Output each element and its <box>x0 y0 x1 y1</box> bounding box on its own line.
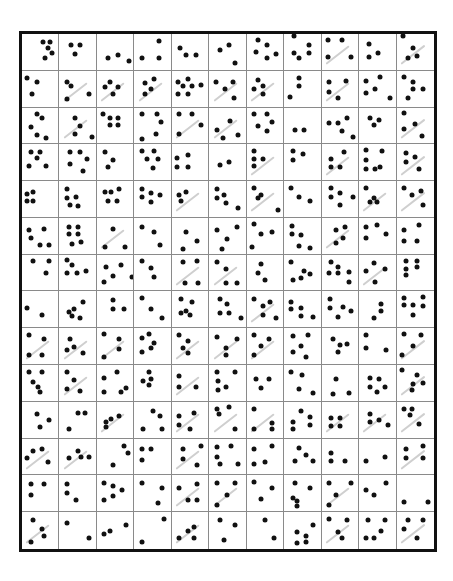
dot <box>253 377 258 382</box>
dot <box>311 314 316 319</box>
dot <box>223 384 228 389</box>
dot <box>293 127 298 132</box>
dot <box>70 241 75 246</box>
dot <box>291 278 296 283</box>
dot <box>72 132 77 137</box>
dot <box>43 135 48 140</box>
grid-cell-r9-c10 <box>359 328 396 365</box>
dot <box>420 303 425 308</box>
dot <box>116 347 121 352</box>
grid-cell-r6-c7 <box>247 218 284 255</box>
dot <box>334 376 339 381</box>
grid-cell-r5-c3 <box>97 181 134 218</box>
dot <box>186 338 191 343</box>
grid-cell-r7-c3 <box>97 255 134 292</box>
dot <box>376 50 381 55</box>
dot <box>64 387 69 392</box>
dot <box>27 228 32 233</box>
dot <box>175 164 180 169</box>
dot <box>382 455 387 460</box>
dot <box>107 80 112 85</box>
dot <box>252 157 257 162</box>
grid-cell-r3-c10 <box>359 108 396 145</box>
dot <box>81 351 86 356</box>
dot <box>214 455 219 460</box>
dot <box>377 417 382 422</box>
dot <box>306 42 311 47</box>
dot <box>186 164 191 169</box>
grid-cell-r13-c11 <box>397 475 434 512</box>
dot <box>111 494 116 499</box>
dot <box>41 482 46 487</box>
grid-cell-r6-c6 <box>209 218 246 255</box>
dot <box>339 128 344 133</box>
dot <box>177 132 182 137</box>
dot <box>326 38 331 43</box>
dot <box>82 410 87 415</box>
grid-cell-r10-c10 <box>359 365 396 402</box>
dot <box>47 417 52 422</box>
dot <box>364 185 369 190</box>
dot <box>378 75 383 80</box>
dot <box>264 56 269 61</box>
grid-cell-r5-c6 <box>209 181 246 218</box>
grid-cell-r7-c2 <box>59 255 96 292</box>
dot <box>38 389 43 394</box>
dot <box>29 540 34 545</box>
dot <box>29 235 34 240</box>
dot <box>177 45 182 50</box>
dot <box>403 273 408 278</box>
dot <box>184 52 189 57</box>
dot <box>364 78 369 83</box>
dot <box>350 134 355 139</box>
dot <box>367 55 372 60</box>
dot <box>30 189 35 194</box>
dot <box>150 165 155 170</box>
dot <box>402 228 407 233</box>
dot <box>372 122 377 127</box>
dot <box>227 43 232 48</box>
dot <box>368 199 373 204</box>
dot <box>272 535 277 540</box>
dot <box>116 123 121 128</box>
dot <box>178 296 183 301</box>
dot <box>189 300 194 305</box>
dot <box>213 79 218 84</box>
dot <box>102 498 107 503</box>
dot <box>125 450 130 455</box>
dot <box>186 528 191 533</box>
dot <box>25 305 30 310</box>
dot <box>157 39 162 44</box>
dot <box>298 344 303 349</box>
dot <box>298 408 303 413</box>
dot <box>157 56 162 61</box>
dot <box>191 535 196 540</box>
dot <box>232 369 237 374</box>
dot <box>139 295 144 300</box>
dot <box>328 186 333 191</box>
dot <box>139 540 144 545</box>
dot <box>116 414 121 419</box>
dot <box>311 390 316 395</box>
grid-cell-r7-c10 <box>359 255 396 292</box>
dot <box>230 79 235 84</box>
dot <box>102 84 107 89</box>
dot <box>252 148 257 153</box>
dot <box>111 484 116 489</box>
dot <box>225 237 230 242</box>
grid-cell-r8-c10 <box>359 291 396 328</box>
dot <box>150 408 155 413</box>
dot <box>35 133 40 138</box>
dot <box>102 532 107 537</box>
grid-cell-r13-c8 <box>284 475 321 512</box>
dot <box>270 443 275 448</box>
grid-cell-r5-c5 <box>172 181 209 218</box>
grid-cell-r4-c9 <box>322 144 359 181</box>
dot <box>307 423 312 428</box>
dot <box>75 224 80 229</box>
dot <box>139 447 144 452</box>
pencil-stroke <box>363 413 387 432</box>
dot <box>388 95 393 100</box>
dot <box>402 127 407 132</box>
dot <box>259 386 264 391</box>
